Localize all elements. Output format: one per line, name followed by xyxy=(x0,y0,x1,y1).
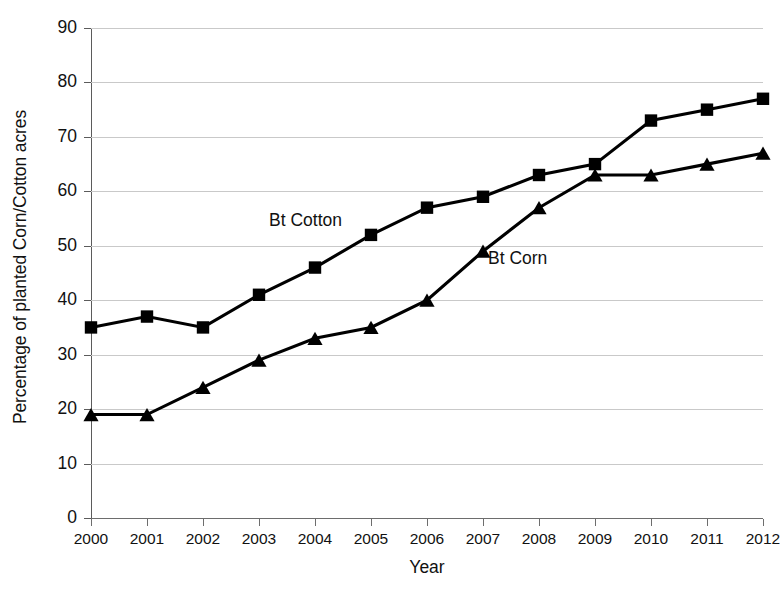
data-point-marker xyxy=(757,93,769,105)
data-point-marker xyxy=(251,354,266,367)
data-point-marker xyxy=(477,191,489,203)
series-line-bt-corn xyxy=(91,153,763,414)
data-point-marker xyxy=(701,103,713,115)
data-point-marker xyxy=(533,169,545,181)
line-chart-figure: Percentage of planted Corn/Cotton acres … xyxy=(0,0,783,595)
data-point-marker xyxy=(253,289,265,301)
data-point-marker xyxy=(197,321,209,333)
data-point-marker xyxy=(85,321,97,333)
data-point-marker xyxy=(141,310,153,322)
series-plot xyxy=(0,0,783,595)
data-point-marker xyxy=(421,201,433,213)
series-label-bt-cotton: Bt Cotton xyxy=(269,210,342,231)
page-edge-artifact xyxy=(0,583,783,595)
data-point-marker xyxy=(195,381,210,394)
data-point-marker xyxy=(645,114,657,126)
data-point-marker xyxy=(365,229,377,241)
series-label-bt-corn: Bt Corn xyxy=(488,248,547,269)
data-point-marker xyxy=(309,261,321,273)
